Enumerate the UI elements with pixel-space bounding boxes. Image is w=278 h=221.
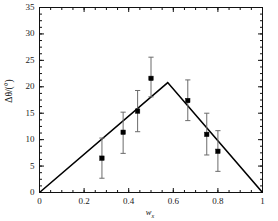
data-point-marker (205, 132, 209, 136)
data-point-marker (121, 130, 125, 134)
data-point-marker (135, 109, 139, 113)
x-tick-label: 0.6 (158, 197, 188, 206)
y-tick-label: 25 (13, 56, 35, 65)
x-axis-label: wx (110, 207, 190, 219)
model-line (40, 83, 263, 193)
data-series-measured (99, 57, 220, 178)
y-tick-label: 35 (13, 3, 35, 12)
data-point-marker (100, 156, 104, 160)
chart-plot-area (0, 0, 277, 221)
y-tick-label: 10 (13, 135, 35, 144)
data-point-marker (186, 98, 190, 102)
y-tick-label: 30 (13, 29, 35, 38)
y-tick-label: 20 (13, 82, 35, 91)
x-tick-label: 1 (248, 197, 278, 206)
data-point-marker (149, 76, 153, 80)
x-tick-label: 0 (25, 197, 55, 206)
y-tick-label: 15 (13, 109, 35, 118)
x-tick-label: 0.2 (69, 197, 99, 206)
x-tick-label: 0.8 (203, 197, 233, 206)
x-tick-label: 0.4 (114, 197, 144, 206)
chart-figure: Δθ/(°) wx 0510152025303500.20.40.60.81 (0, 0, 277, 221)
y-tick-label: 5 (13, 162, 35, 171)
data-point-marker (216, 149, 220, 153)
x-axis-label-sub: x (152, 213, 155, 219)
